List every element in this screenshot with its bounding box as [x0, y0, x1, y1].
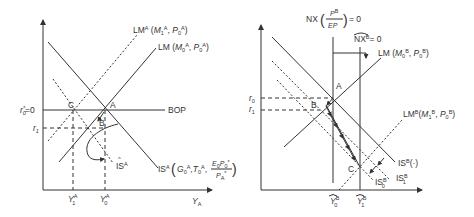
lm-a-initial-label: LM (M0A, P0A) [158, 42, 209, 53]
svg-text:(: ( [171, 161, 176, 177]
is-b-shift-arrow-2 [370, 166, 376, 173]
path-arrowhead [343, 138, 349, 149]
is-a-hat-mark: ^ [118, 156, 121, 162]
nx-hat-label: NXB= 0 [354, 33, 382, 44]
svg-text:= 0: = 0 [349, 14, 361, 24]
r0-a-label: r0*=0 [20, 105, 35, 116]
panel-country-a: A B C r0*=0 r1 YA1 YA0 YA LMA (M1A, P0A)… [20, 20, 237, 207]
point-c-label: C [68, 100, 74, 110]
is-b-1-label: ISB1 [396, 173, 408, 185]
svg-text:EP: EP [328, 22, 338, 29]
svg-text:): ) [343, 12, 348, 28]
lm-b-shifted-curve [339, 120, 402, 190]
nx-zero-label: NX ( PB EP ) = 0 [306, 8, 361, 29]
svg-text:G0A,T0A,: G0A,T0A, [177, 164, 207, 175]
svg-text:E0P0*: E0P0* [212, 159, 230, 169]
lm-b-initial-label: LM (M0B, P0B) [378, 48, 429, 59]
svg-text:ISA: ISA [158, 164, 170, 174]
point-b-b-label: B [311, 100, 317, 110]
y0-b-label: YB0 [330, 195, 340, 208]
is-shift-curved-arrow [87, 124, 118, 160]
lm-b-shifted-label: LMB(M1B, P0B) [403, 109, 455, 120]
point-a-b-label: A [336, 81, 342, 91]
lm-a-shifted-curve [48, 35, 137, 141]
point-c-b-label: C [348, 164, 354, 174]
bop-label: BOP [168, 105, 186, 115]
is-b-1-curve [272, 61, 390, 180]
is-b-shift-arrow-1 [378, 158, 384, 165]
path-arrowhead [337, 127, 343, 138]
y1-b-label: YB1 [357, 195, 367, 208]
r1-b-label: r1 [249, 104, 255, 115]
path-arrowhead [326, 106, 331, 116]
svg-text:NXB= 0: NXB= 0 [354, 34, 382, 44]
is-a-hat-label: ISA [116, 161, 128, 171]
is-a-label: ISA ( G0A,T0A, E0P0* PA* ) [158, 159, 237, 181]
y0-a-label: YA0 [100, 193, 110, 206]
move-a-to-b-arrow [327, 98, 333, 105]
x-axis-a-label: YA [192, 196, 202, 207]
point-a-label: A [110, 100, 116, 110]
svg-text:NX: NX [306, 14, 318, 24]
svg-text:PA*: PA* [216, 170, 227, 181]
r1-a-label: r1 [33, 123, 39, 134]
r0-b-label: r0 [249, 93, 255, 104]
svg-text:): ) [232, 161, 237, 177]
is-lm-bop-diagram: A B C r0*=0 r1 YA1 YA0 YA LMA (M1A, P0A)… [0, 0, 474, 217]
panel-country-b: A B C r0 r1 YB0 YB1 NX ( PB EP ) = 0 NXB… [249, 8, 455, 208]
is-b-label: ISB(·) [398, 158, 418, 168]
is-b-0-label: ISB0 [375, 177, 387, 189]
nx-shift-arrow [333, 53, 366, 58]
y1-a-label: YA1 [68, 193, 78, 206]
lm-a-shifted-label: LMA (M1A, P0A) [133, 25, 188, 36]
svg-text:PB: PB [330, 8, 339, 17]
svg-text:(: ( [320, 12, 325, 28]
is-a-curve [48, 42, 158, 168]
point-b-label: B [99, 118, 105, 128]
